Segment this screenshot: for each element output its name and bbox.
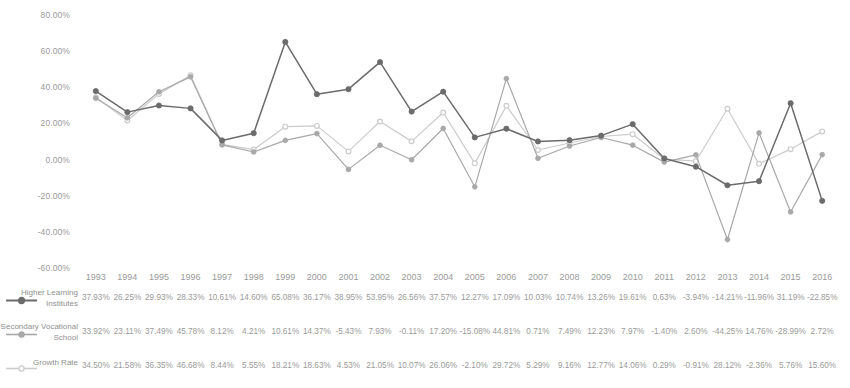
data-table-cell: 0.29% — [649, 361, 681, 370]
data-table-cell: 10.61% — [206, 293, 238, 302]
y-axis-tick-label: -40.00% — [20, 227, 70, 237]
data-table-cell: 15.60% — [806, 361, 838, 370]
data-table-cell: -15.08% — [459, 327, 491, 336]
data-table-cell: 34.50% — [80, 361, 112, 370]
data-point-marker — [346, 149, 351, 154]
data-table-cell: 2.72% — [806, 327, 838, 336]
data-table-cell: 7.97% — [617, 327, 649, 336]
x-axis-tick-label: 2003 — [396, 272, 428, 282]
data-table-cell: 65.08% — [270, 293, 302, 302]
data-table-cell: 23.11% — [112, 327, 144, 336]
data-table-cell: 44.81% — [491, 327, 523, 336]
data-table-cell: 38.95% — [333, 293, 365, 302]
data-point-marker — [757, 161, 762, 166]
data-table-cell: 18.63% — [301, 361, 333, 370]
data-table-cell: -0.11% — [396, 327, 428, 336]
data-table-cell: 28.33% — [175, 293, 207, 302]
data-table-cell: -5.43% — [333, 327, 365, 336]
data-point-marker — [693, 164, 698, 169]
data-table-cell: 12.77% — [585, 361, 617, 370]
data-table-cell: 53.95% — [364, 293, 396, 302]
data-point-marker — [283, 138, 288, 143]
series-path — [96, 77, 822, 240]
data-table-cell: 14.60% — [238, 293, 270, 302]
data-point-marker — [725, 183, 730, 188]
data-table-cell: 8.44% — [206, 361, 238, 370]
data-point-marker — [820, 129, 825, 134]
legend-item-label-2: Growth Rate — [0, 358, 80, 369]
data-point-marker — [188, 74, 193, 79]
x-axis-tick-label: 2012 — [680, 272, 712, 282]
data-table-cell: 10.03% — [522, 293, 554, 302]
data-point-marker — [630, 132, 635, 137]
series-line-0 — [93, 39, 825, 203]
data-point-marker — [93, 88, 98, 93]
data-table-cell: -0.91% — [680, 361, 712, 370]
data-table-cell: 0.71% — [522, 327, 554, 336]
data-point-marker — [535, 139, 540, 144]
data-table-cell: -14.21% — [712, 293, 744, 302]
data-point-marker — [567, 144, 572, 149]
x-axis-tick-label: 2014 — [743, 272, 775, 282]
data-table-cell: 26.25% — [112, 293, 144, 302]
data-table-cell: 2.60% — [680, 327, 712, 336]
data-point-marker — [820, 198, 825, 203]
data-table-cell: 18.21% — [270, 361, 302, 370]
data-point-marker — [536, 156, 541, 161]
data-point-marker — [409, 109, 414, 114]
data-point-marker — [409, 157, 414, 162]
data-point-marker — [441, 126, 446, 131]
data-table-cell: 36.17% — [301, 293, 333, 302]
x-axis-tick-label: 2016 — [806, 272, 838, 282]
data-point-marker — [788, 101, 793, 106]
x-axis-tick-label: 1997 — [206, 272, 238, 282]
data-table-cell: 8.12% — [206, 327, 238, 336]
data-point-marker — [472, 161, 477, 166]
data-table-cell: 10.61% — [270, 327, 302, 336]
data-table-cell: 10.07% — [396, 361, 428, 370]
series-line-2 — [93, 73, 824, 166]
data-point-marker — [409, 139, 414, 144]
data-point-marker — [346, 87, 351, 92]
x-axis-tick-label: 2005 — [459, 272, 491, 282]
y-axis-tick-label: 40.00% — [20, 82, 70, 92]
x-axis-tick-label: 2000 — [301, 272, 333, 282]
data-table-cell: 9.16% — [554, 361, 586, 370]
y-axis-tick-label: -60.00% — [20, 263, 70, 273]
data-point-marker — [378, 143, 383, 148]
y-axis-tick-label: -20.00% — [20, 191, 70, 201]
x-axis-tick-label: 2001 — [333, 272, 365, 282]
data-point-marker — [346, 167, 351, 172]
data-point-marker — [188, 106, 193, 111]
data-point-marker — [536, 148, 541, 153]
data-point-marker — [756, 179, 761, 184]
data-table-cell: 33.92% — [80, 327, 112, 336]
data-table-cell: 13.26% — [585, 293, 617, 302]
data-table-cell: 29.72% — [491, 361, 523, 370]
data-table-cell: 0.63% — [649, 293, 681, 302]
x-axis-tick-label: 2015 — [775, 272, 807, 282]
data-table-cell: -1.40% — [649, 327, 681, 336]
data-point-marker — [125, 110, 130, 115]
x-axis-tick-label: 1998 — [238, 272, 270, 282]
x-axis-tick-label: 1994 — [112, 272, 144, 282]
legend-item-label-1: Secondary Vocational School — [0, 322, 80, 343]
data-point-marker — [283, 39, 288, 44]
data-table-cell: -44.25% — [712, 327, 744, 336]
y-axis-tick-label: 20.00% — [20, 118, 70, 128]
data-point-marker — [599, 133, 604, 138]
data-table-cell: 21.05% — [364, 361, 396, 370]
data-point-marker — [377, 59, 382, 64]
data-point-marker — [472, 135, 477, 140]
data-point-marker — [725, 106, 730, 111]
data-table-cell: 37.49% — [143, 327, 175, 336]
data-table-cell: 37.57% — [427, 293, 459, 302]
data-table-cell: 21.58% — [112, 361, 144, 370]
data-table-cell: 7.49% — [554, 327, 586, 336]
y-axis-tick-label: 0.00% — [20, 155, 70, 165]
data-table-cell: 5.55% — [238, 361, 270, 370]
data-point-marker — [93, 96, 98, 101]
data-table-cell: 37.93% — [80, 293, 112, 302]
data-table-cell: 28.12% — [712, 361, 744, 370]
data-table-cell: 31.19% — [775, 293, 807, 302]
